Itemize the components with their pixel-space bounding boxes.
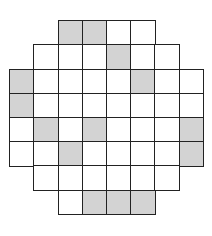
grid-cell	[82, 69, 108, 95]
grid-cell	[58, 117, 84, 143]
grid-cell	[154, 69, 180, 95]
grid-cell-shaded	[179, 141, 205, 167]
grid-cell	[106, 117, 132, 143]
octagonal-grid	[0, 0, 212, 236]
grid-cell	[130, 141, 156, 167]
grid-cell	[58, 190, 84, 216]
grid-cell	[58, 44, 84, 70]
grid-cell	[154, 93, 180, 119]
grid-cell-shaded	[130, 190, 156, 216]
grid-cell	[33, 141, 59, 167]
grid-cell	[82, 44, 108, 70]
grid-cell	[130, 93, 156, 119]
grid-cell	[106, 141, 132, 167]
grid-cell	[154, 165, 180, 191]
grid-cell	[58, 69, 84, 95]
grid-cell	[106, 165, 132, 191]
grid-cell	[130, 117, 156, 143]
grid-cell	[179, 93, 205, 119]
grid-cell	[33, 93, 59, 119]
grid-cell-shaded	[33, 117, 59, 143]
grid-cell	[154, 117, 180, 143]
grid-cell	[82, 141, 108, 167]
grid-cell	[82, 93, 108, 119]
grid-cell	[154, 44, 180, 70]
grid-cell	[58, 165, 84, 191]
grid-cell	[9, 117, 35, 143]
grid-cell	[154, 141, 180, 167]
grid-cell	[106, 20, 132, 46]
grid-cell-shaded	[82, 190, 108, 216]
grid-cell-shaded	[58, 20, 84, 46]
grid-cell	[130, 44, 156, 70]
grid-cell	[82, 165, 108, 191]
grid-cell	[130, 20, 156, 46]
grid-cell	[33, 44, 59, 70]
grid-cell-shaded	[9, 93, 35, 119]
grid-cell	[106, 69, 132, 95]
grid-cell-shaded	[9, 69, 35, 95]
grid-cell	[58, 93, 84, 119]
grid-cell-shaded	[179, 117, 205, 143]
grid-cell	[130, 165, 156, 191]
grid-cell-shaded	[106, 190, 132, 216]
grid-cell	[9, 141, 35, 167]
grid-cell-shaded	[82, 20, 108, 46]
grid-cell	[33, 69, 59, 95]
grid-cell-shaded	[58, 141, 84, 167]
grid-cell	[33, 165, 59, 191]
grid-cell	[179, 69, 205, 95]
grid-cell-shaded	[82, 117, 108, 143]
grid-cell-shaded	[130, 69, 156, 95]
grid-cell-shaded	[106, 44, 132, 70]
grid-cell	[106, 93, 132, 119]
